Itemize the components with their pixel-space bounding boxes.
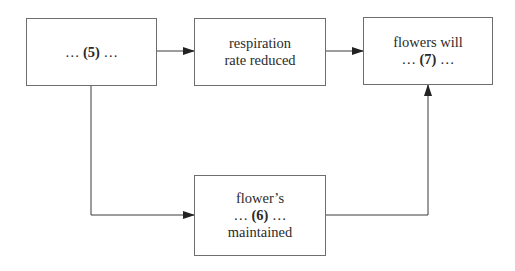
arrow-flower6-to-flowers xyxy=(325,85,428,215)
node-line: … (5) … xyxy=(65,44,118,61)
node-line: maintained xyxy=(228,224,292,241)
flow-diagram: … (5) … respiration rate reduced flowers… xyxy=(0,0,515,271)
node-flowers-will-7: flowers will … (7) … xyxy=(363,17,493,85)
node-line: … (6) … xyxy=(233,207,286,224)
node-line: flower’s xyxy=(236,190,284,207)
node-flowers-6-maintained: flower’s … (6) … maintained xyxy=(194,175,326,256)
node-line: flowers will xyxy=(393,34,463,51)
node-line: respiration xyxy=(229,35,291,52)
node-line: … (7) … xyxy=(401,51,454,68)
node-blank-5: … (5) … xyxy=(26,18,157,86)
node-respiration-rate-reduced: respiration rate reduced xyxy=(194,18,326,86)
node-line: rate reduced xyxy=(224,52,295,69)
arrow-5-to-flower6 xyxy=(91,85,194,215)
